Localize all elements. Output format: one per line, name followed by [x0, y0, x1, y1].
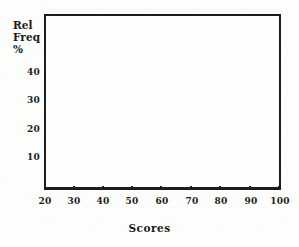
x-tick-label-60: 60	[147, 196, 177, 206]
y-tick-label-30: 30	[14, 95, 40, 105]
x-tick-label-40: 40	[88, 196, 118, 206]
x-tick-label-90: 90	[236, 196, 266, 206]
x-tick-mark-40	[102, 186, 104, 190]
x-tick-mark-30	[73, 186, 75, 190]
y-tick-label-20: 20	[14, 124, 40, 134]
chart-figure: Rel Freq % 40 30 20 10 20 30 40 50 60 70…	[0, 0, 299, 247]
x-tick-mark-80	[219, 186, 221, 190]
x-tick-mark-60	[160, 186, 162, 190]
y-axis-title-line-2: Freq	[13, 31, 43, 43]
x-tick-label-30: 30	[59, 196, 89, 206]
x-tick-mark-50	[131, 186, 133, 190]
y-axis-title-line-3: %	[13, 43, 43, 55]
x-tick-label-70: 70	[177, 196, 207, 206]
x-tick-mark-100	[278, 186, 280, 190]
x-axis-title: Scores	[0, 222, 299, 234]
y-tick-label-40: 40	[14, 67, 40, 77]
x-tick-mark-90	[249, 186, 251, 190]
y-axis-title-line-1: Rel	[13, 19, 43, 31]
x-tick-label-20: 20	[30, 196, 60, 206]
x-tick-label-50: 50	[117, 196, 147, 206]
x-tick-label-100: 100	[265, 196, 295, 206]
x-tick-mark-70	[190, 186, 192, 190]
y-axis-title: Rel Freq %	[13, 19, 43, 56]
plot-area	[44, 14, 281, 190]
x-tick-mark-20	[44, 186, 46, 190]
y-tick-label-10: 10	[14, 152, 40, 162]
x-tick-label-80: 80	[206, 196, 236, 206]
